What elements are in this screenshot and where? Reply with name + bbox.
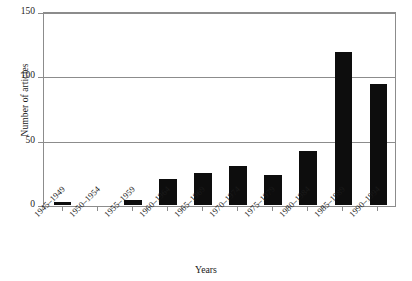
- bar: [54, 202, 72, 205]
- x-axis-title: Years: [0, 264, 412, 275]
- bar-series: [45, 14, 394, 205]
- y-tick-label: 150: [21, 6, 35, 16]
- y-tick-label: 50: [26, 135, 36, 145]
- y-axis-title: Number of articles: [20, 20, 30, 180]
- plot-area: [43, 12, 396, 207]
- x-tick-mark: [237, 207, 238, 211]
- x-tick-mark: [272, 207, 273, 211]
- bar-chart-figure: Number of articles 050100150 1945–194919…: [0, 0, 412, 281]
- x-tick-mark: [202, 207, 203, 211]
- x-tick-mark: [377, 207, 378, 211]
- x-tick-mark: [97, 207, 98, 211]
- bar: [335, 52, 353, 205]
- x-tick-mark: [167, 207, 168, 211]
- y-tick-label: 0: [30, 199, 35, 209]
- x-tick-mark: [62, 207, 63, 211]
- x-tick-mark: [307, 207, 308, 211]
- x-tick-mark: [132, 207, 133, 211]
- y-tick-label: 100: [21, 70, 35, 80]
- x-tick-mark: [342, 207, 343, 211]
